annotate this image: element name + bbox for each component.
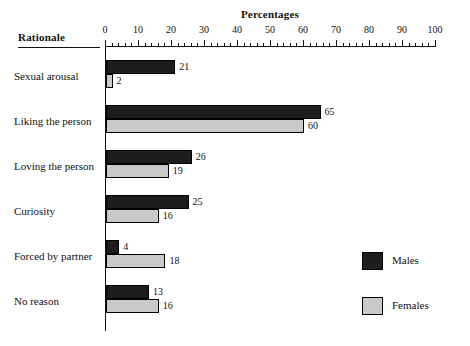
bar-value-label: 25 bbox=[193, 195, 203, 209]
bar-value-label: 18 bbox=[169, 254, 179, 268]
bar-value-label: 13 bbox=[153, 285, 163, 299]
bar-females bbox=[106, 74, 113, 88]
category-label: Forced by partner bbox=[14, 250, 102, 262]
bar-value-label: 16 bbox=[163, 209, 173, 223]
category-label: Loving the person bbox=[14, 160, 102, 172]
bar-males bbox=[106, 285, 149, 299]
legend-label: Females bbox=[392, 299, 429, 311]
bar-males bbox=[106, 150, 192, 164]
bar-value-label: 4 bbox=[123, 240, 128, 254]
bar-value-label: 21 bbox=[179, 60, 189, 74]
category-label: Liking the person bbox=[14, 115, 102, 127]
plot-area: Sexual arousal212Liking the person6560Lo… bbox=[0, 0, 470, 346]
category-label: Sexual arousal bbox=[14, 70, 102, 82]
bar-value-label: 16 bbox=[163, 299, 173, 313]
legend-swatch-icon bbox=[362, 252, 383, 270]
bar-value-label: 26 bbox=[196, 150, 206, 164]
bar-females bbox=[106, 209, 159, 223]
legend-label: Males bbox=[392, 254, 419, 266]
bar-males bbox=[106, 195, 189, 209]
bar-females bbox=[106, 299, 159, 313]
legend-swatch-icon bbox=[362, 297, 383, 315]
bar-value-label: 19 bbox=[173, 164, 183, 178]
bar-value-label: 2 bbox=[117, 74, 122, 88]
bar-chart: Percentages Rationale 010203040506070809… bbox=[0, 0, 470, 346]
bar-males bbox=[106, 60, 175, 74]
bar-males bbox=[106, 240, 119, 254]
bar-males bbox=[106, 105, 321, 119]
bar-females bbox=[106, 164, 169, 178]
category-label: No reason bbox=[14, 295, 102, 307]
bar-value-label: 65 bbox=[325, 105, 335, 119]
bar-females bbox=[106, 254, 165, 268]
bar-value-label: 60 bbox=[308, 119, 318, 133]
bar-females bbox=[106, 119, 304, 133]
category-label: Curiosity bbox=[14, 205, 102, 217]
